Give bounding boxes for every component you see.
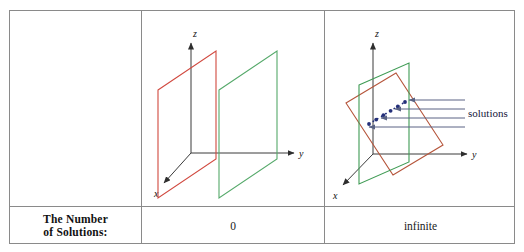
- intersection-dot: [374, 118, 378, 122]
- intersection-line-dotted: [369, 102, 405, 124]
- cell-solutions-count-parallel: 0: [142, 207, 324, 245]
- intersection-dot: [403, 100, 407, 104]
- cell-solutions-count-intersecting: infinite: [325, 207, 516, 245]
- solutions-count-value: infinite: [404, 220, 437, 232]
- axis-x-label: x: [332, 190, 338, 201]
- cell-top-left-empty: [10, 11, 141, 206]
- axis-z-label: z: [374, 28, 379, 39]
- plane-red-intersecting: [346, 73, 443, 175]
- row-header-line1: The Number: [43, 213, 108, 226]
- plane-green-parallel: [219, 51, 277, 198]
- intersection-dot: [389, 109, 393, 113]
- solutions-count-value: 0: [230, 220, 236, 232]
- intersection-dot: [367, 122, 371, 126]
- solutions-label: solutions: [468, 107, 508, 119]
- solutions-table: z y x: [9, 10, 515, 244]
- intersection-dot: [396, 105, 400, 109]
- intersection-dot: [382, 113, 386, 117]
- axis-z-label: z: [192, 28, 197, 39]
- row-header-line2: of Solutions:: [43, 226, 108, 239]
- cell-diagram-parallel-planes: z y x: [142, 11, 324, 206]
- parallel-planes-diagram: z y x: [142, 11, 324, 206]
- intersecting-planes-diagram: z y x solutions: [325, 11, 516, 206]
- axis-y-label: y: [471, 149, 477, 160]
- cell-row-header: The Number of Solutions:: [10, 207, 141, 245]
- row-header-text: The Number of Solutions:: [43, 213, 108, 239]
- plane-red-parallel: [158, 51, 216, 198]
- page-root: z y x: [0, 0, 524, 252]
- cell-diagram-intersecting-planes: z y x solutions: [325, 11, 516, 206]
- axis-y-label: y: [298, 148, 304, 159]
